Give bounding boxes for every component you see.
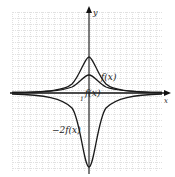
function-graph: y x 1 f(x) f(x) −2f(x) xyxy=(0,0,175,177)
y-axis-label: y xyxy=(92,8,98,17)
x-axis-label: x xyxy=(164,97,168,105)
tick-label-one: 1 xyxy=(80,95,84,102)
f-curve-label: f(x) xyxy=(84,88,101,98)
neg-2f-curve-label: −2f(x) xyxy=(52,125,81,135)
y-axis-arrow-icon xyxy=(86,6,92,13)
graph-svg: y x 1 f(x) f(x) −2f(x) xyxy=(0,0,175,177)
x-axis-arrow-icon xyxy=(164,90,171,96)
upper-curve-label: f(x) xyxy=(100,72,117,82)
